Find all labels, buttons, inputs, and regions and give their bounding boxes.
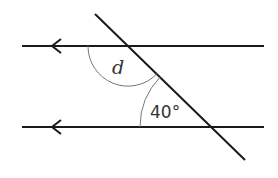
parallel-lines-diagram: d 40°: [0, 0, 278, 178]
transversal-line: [95, 14, 245, 160]
angle-40-label: 40°: [150, 102, 180, 122]
angle-d-label: d: [112, 56, 124, 78]
